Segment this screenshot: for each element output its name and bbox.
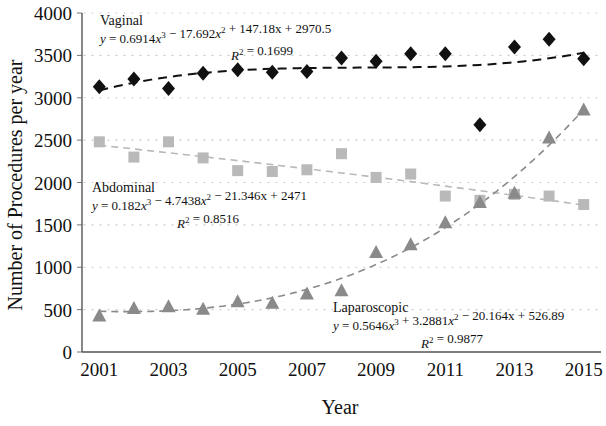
data-point (578, 199, 589, 210)
data-point (542, 131, 556, 144)
data-point (508, 39, 521, 54)
y-axis-tick-label: 500 (44, 300, 73, 321)
data-point (163, 136, 174, 147)
data-point (94, 136, 105, 147)
x-axis-labels: 20012003200520072009201120132015 (80, 359, 602, 380)
data-point (473, 117, 486, 132)
data-point (93, 79, 106, 94)
data-point (336, 148, 347, 159)
y-axis-title: Number of Procedures per year (4, 59, 27, 310)
series-label: Laparoscopic (333, 300, 408, 315)
data-point (198, 152, 209, 163)
x-axis-title: Year (322, 396, 359, 418)
data-point (404, 46, 417, 61)
data-point (267, 166, 278, 177)
y-axis-tick-label: 0 (63, 342, 73, 363)
data-point (440, 191, 451, 202)
y-axis-tick-label: 3000 (34, 88, 72, 109)
x-axis-tick-label: 2001 (80, 359, 118, 380)
data-point (439, 46, 452, 61)
data-point (369, 245, 383, 258)
y-axis-labels: 40003500300025002000150010005000 (34, 3, 72, 363)
data-point (300, 287, 314, 300)
data-point (266, 65, 279, 80)
data-point (265, 296, 279, 309)
y-axis-tick-label: 4000 (34, 3, 72, 24)
data-point (127, 301, 141, 314)
series-label: Vaginal (100, 13, 143, 28)
data-point (371, 172, 382, 183)
y-axis-tick-label: 2500 (34, 130, 72, 151)
data-point (404, 237, 418, 250)
data-point (438, 215, 452, 228)
data-point (335, 283, 349, 296)
x-axis-tick-label: 2013 (496, 359, 534, 380)
data-point (162, 299, 176, 312)
data-point (197, 66, 210, 81)
y-axis-tick-label: 2000 (34, 173, 72, 194)
x-axis-tick-label: 2007 (288, 359, 326, 380)
y-axis-tick-label: 3500 (34, 45, 72, 66)
data-point (301, 164, 312, 175)
data-point (335, 50, 348, 65)
data-point (128, 152, 139, 163)
data-point (231, 294, 245, 307)
data-point (162, 81, 175, 96)
data-point (231, 62, 244, 77)
series-r-squared: R2 = 0.1699 (230, 43, 293, 63)
x-axis-tick-label: 2005 (219, 359, 257, 380)
data-point (300, 64, 313, 79)
series-label: Abdominal (92, 180, 155, 195)
data-point (92, 309, 106, 322)
y-axis-tick-label: 1000 (34, 257, 72, 278)
x-axis-tick-label: 2009 (357, 359, 395, 380)
chart-container: 40003500300025002000150010005000 2001200… (0, 0, 606, 426)
y-axis-ticks (77, 13, 82, 352)
series-r-squared: R2 = 0.8516 (176, 211, 240, 231)
x-axis-tick-label: 2015 (565, 359, 603, 380)
y-axis-tick-label: 1500 (34, 215, 72, 236)
procedures-by-year-chart: 40003500300025002000150010005000 2001200… (0, 0, 606, 426)
x-axis-tick-label: 2011 (427, 359, 464, 380)
series-r-squared: R2 = 0.9877 (420, 331, 484, 351)
x-axis-tick-label: 2003 (150, 359, 188, 380)
data-point (543, 32, 556, 47)
data-point (577, 103, 591, 116)
data-point (232, 165, 243, 176)
data-point (405, 169, 416, 180)
data-point (544, 191, 555, 202)
